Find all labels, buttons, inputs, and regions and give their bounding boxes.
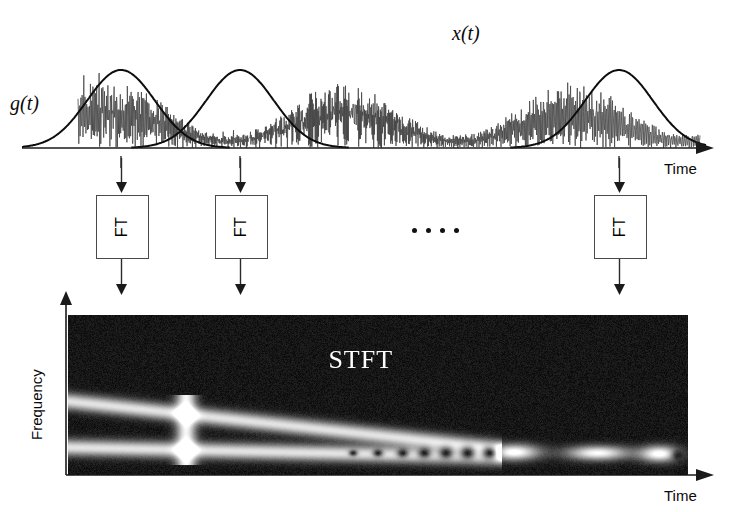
window-function-label: g(t): [10, 92, 39, 115]
ellipsis-dot: [412, 228, 417, 233]
ellipsis-dot: [440, 228, 445, 233]
ft-box-label: FT: [232, 217, 250, 238]
ft-box-label: FT: [611, 217, 629, 238]
frequency-axis-label: Frequency: [28, 369, 45, 440]
spectrogram-canvas: [68, 315, 688, 475]
signal-function-label: x(t): [452, 22, 480, 45]
ellipsis-dot: [426, 228, 431, 233]
ft-box-3: FT: [594, 195, 647, 259]
stft-panel-label: STFT: [328, 345, 393, 375]
ft-box-label: FT: [113, 217, 131, 238]
time-axis-label-bottom: Time: [664, 487, 697, 504]
ft-ellipsis: [412, 228, 459, 233]
ft-box-1: FT: [96, 195, 149, 259]
stft-spectrogram: [68, 315, 688, 475]
ft-box-2: FT: [215, 195, 268, 259]
window-to-ft-arrows: [116, 158, 625, 295]
stft-figure: g(t) x(t) Time FTFTFT STFT Frequency Tim…: [0, 0, 743, 512]
ellipsis-dot: [454, 228, 459, 233]
time-axis-label-top: Time: [664, 160, 697, 177]
